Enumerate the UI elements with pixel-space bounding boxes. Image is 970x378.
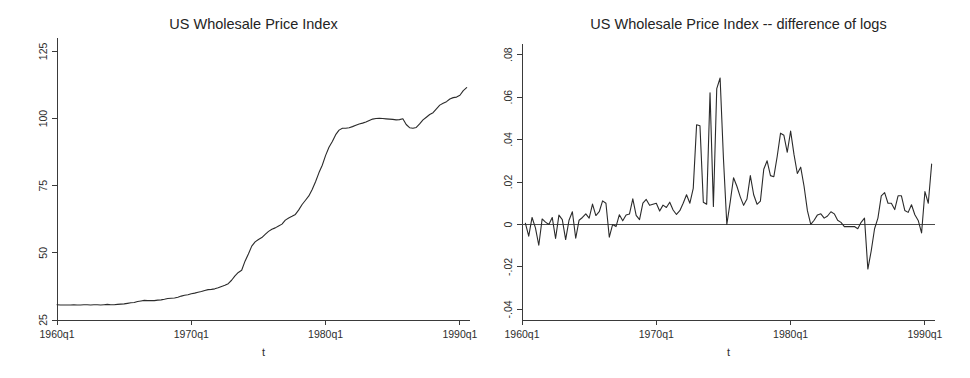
x-tick-label: 1990q1 [442, 328, 477, 340]
dlog-chart-svg: US Wholesale Price Index -- difference o… [485, 0, 970, 378]
y-tick-label: .06 [502, 90, 514, 105]
y-tick-label: 50 [37, 247, 49, 259]
y-tick-label: 125 [37, 43, 49, 61]
figure-container: US Wholesale Price Index2550751001251960… [0, 0, 970, 378]
y-tick-label: .08 [502, 47, 514, 62]
chart-panel-dlog: US Wholesale Price Index -- difference o… [485, 0, 970, 378]
y-tick-label: 100 [37, 110, 49, 128]
x-tick-label: 1970q1 [639, 328, 674, 340]
x-tick-label: 1980q1 [308, 328, 343, 340]
x-tick-label: 1960q1 [39, 328, 74, 340]
data-series-line [525, 78, 931, 269]
chart-panel-levels: US Wholesale Price Index2550751001251960… [0, 0, 485, 378]
x-tick-label: 1970q1 [174, 328, 209, 340]
chart-title: US Wholesale Price Index [169, 16, 338, 32]
x-tick-label: 1960q1 [504, 328, 539, 340]
y-tick-label: -.02 [502, 258, 514, 276]
x-tick-label: 1980q1 [773, 328, 808, 340]
y-tick-label: 25 [37, 314, 49, 326]
data-series-line [57, 88, 467, 305]
x-tick-label: 1990q1 [907, 328, 942, 340]
y-tick-label: 0 [502, 221, 514, 227]
y-tick-label: .04 [502, 132, 514, 147]
y-tick-label: 75 [37, 180, 49, 192]
x-axis-title: t [727, 346, 730, 358]
x-axis-title: t [262, 346, 265, 358]
levels-chart-svg: US Wholesale Price Index2550751001251960… [0, 0, 485, 378]
y-tick-label: -.04 [502, 300, 514, 318]
chart-title: US Wholesale Price Index -- difference o… [590, 16, 886, 32]
y-tick-label: .02 [502, 175, 514, 190]
